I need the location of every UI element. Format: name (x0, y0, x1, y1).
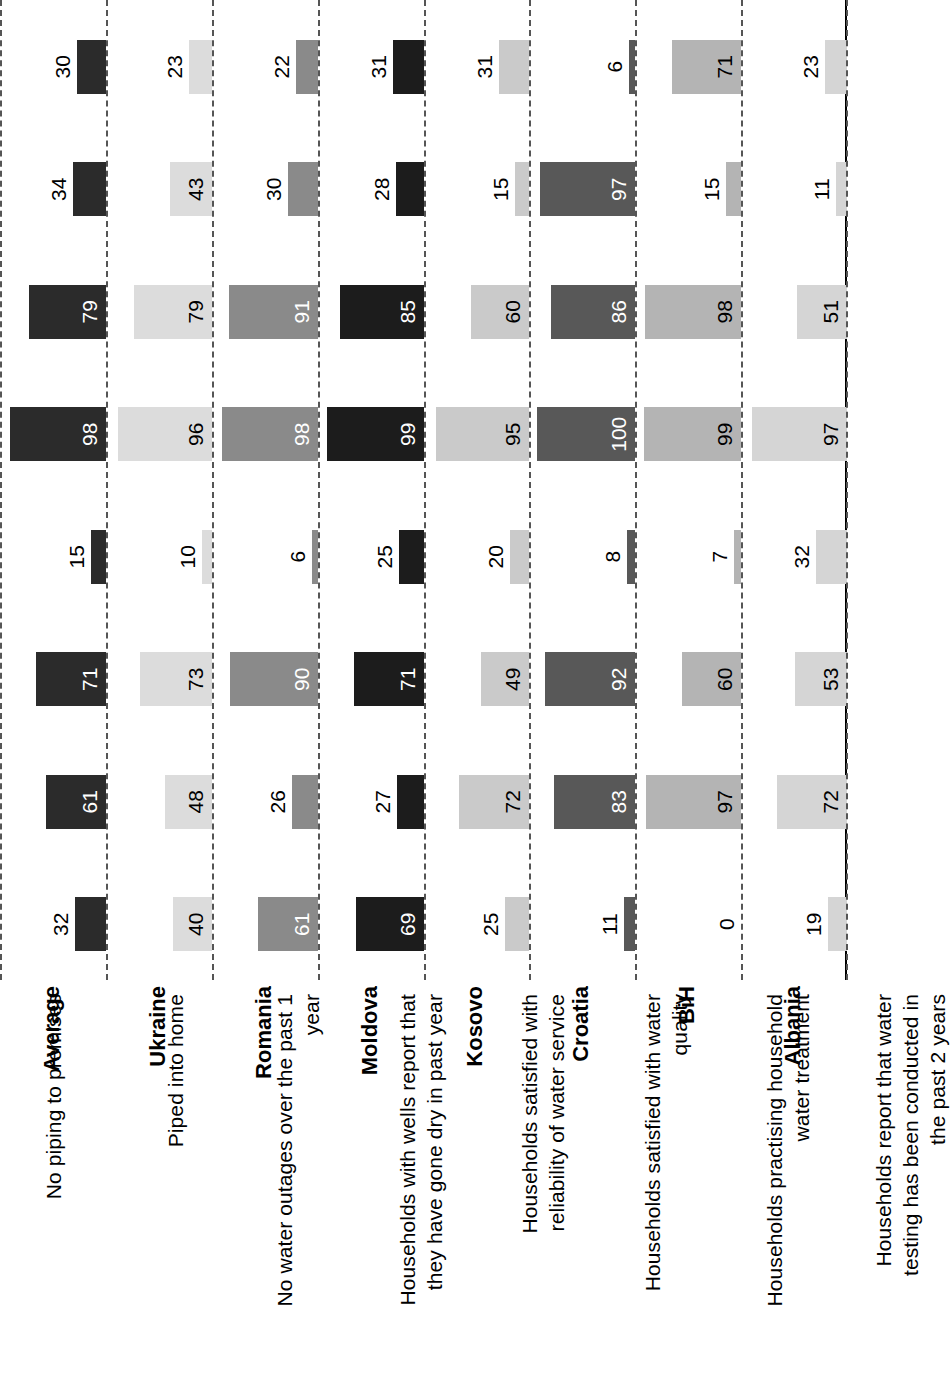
bar (510, 530, 530, 584)
bar (499, 40, 529, 94)
bar (77, 40, 106, 94)
bar-value-label: 15 (489, 162, 513, 216)
bar-value-label: 48 (184, 775, 208, 829)
bar-slot: 31 (424, 40, 530, 94)
band-separator (424, 0, 426, 980)
bar-value-label: 71 (78, 652, 102, 706)
bar-slot: 15 (635, 162, 741, 216)
bar-slot: 43 (106, 162, 212, 216)
bar-slot: 79 (106, 285, 212, 339)
band-separator (529, 0, 531, 980)
indicator-label-7: Households report that watertesting has … (870, 994, 951, 1366)
bar-slot: 27 (318, 775, 424, 829)
bar-slot: 90 (212, 652, 318, 706)
country-band-moldova: Moldova6927712599852831 (318, 0, 424, 980)
bar-slot: 95 (424, 407, 530, 461)
bar (399, 530, 423, 584)
bar-slot: 61 (212, 897, 318, 951)
bar-value-label: 49 (501, 652, 525, 706)
bar (296, 40, 318, 94)
bar (73, 162, 106, 216)
band-separator (0, 0, 2, 980)
country-label-average: Average (39, 986, 65, 1072)
bar-value-label: 97 (713, 775, 737, 829)
bar-slot: 99 (635, 407, 741, 461)
bar-value-label: 32 (790, 530, 814, 584)
bar-value-label: 15 (700, 162, 724, 216)
bar-value-label: 26 (266, 775, 290, 829)
bar-value-label: 60 (713, 652, 737, 706)
bar-value-label: 11 (810, 162, 834, 216)
bar (292, 775, 317, 829)
bar-slot: 19 (741, 897, 847, 951)
bar (397, 775, 423, 829)
bar-value-label: 95 (501, 407, 525, 461)
bar (816, 530, 847, 584)
bar-value-label: 28 (370, 162, 394, 216)
bar-value-label: 79 (184, 285, 208, 339)
bar-value-label: 73 (184, 652, 208, 706)
country-label-romania: Romania (251, 986, 277, 1079)
bar-slot: 15 (0, 530, 106, 584)
bar-slot: 53 (741, 652, 847, 706)
country-band-bih: BiH09760799981571 (635, 0, 741, 980)
bar-value-label: 53 (819, 652, 843, 706)
bar-slot: 6 (212, 530, 318, 584)
bar-slot: 83 (529, 775, 635, 829)
bar-value-label: 31 (473, 40, 497, 94)
bar-value-label: 25 (479, 897, 503, 951)
bar-value-label: 23 (163, 40, 187, 94)
country-label-bih: BiH (674, 986, 700, 1024)
bar-value-label: 91 (290, 285, 314, 339)
bar (189, 40, 212, 94)
bar-value-label: 23 (799, 40, 823, 94)
country-label-albania: Albania (780, 986, 806, 1065)
bar-value-label: 40 (184, 897, 208, 951)
bar-value-label: 72 (501, 775, 525, 829)
bar-slot: 49 (424, 652, 530, 706)
bar-value-label: 60 (501, 285, 525, 339)
bar-slot: 25 (424, 897, 530, 951)
bar-value-label: 22 (270, 40, 294, 94)
bar (515, 162, 530, 216)
band-separator (635, 0, 637, 980)
bar (825, 40, 848, 94)
bar-slot: 79 (0, 285, 106, 339)
bar (624, 897, 635, 951)
bar-value-label: 15 (65, 530, 89, 584)
bar-slot: 98 (212, 407, 318, 461)
bar-value-label: 99 (713, 407, 737, 461)
bar-slot: 34 (0, 162, 106, 216)
bar-value-label: 61 (78, 775, 102, 829)
country-label-croatia: Croatia (568, 986, 594, 1062)
bar-value-label: 32 (49, 897, 73, 951)
indicator-label-3: Households with wells report thatthey ha… (394, 994, 448, 1366)
bar-slot: 61 (0, 775, 106, 829)
bar-slot: 98 (635, 285, 741, 339)
bar (91, 530, 106, 584)
bar-slot: 23 (106, 40, 212, 94)
bar-value-label: 97 (819, 407, 843, 461)
bar-value-label: 43 (184, 162, 208, 216)
bar-value-label: 30 (51, 40, 75, 94)
bar-slot: 91 (212, 285, 318, 339)
bar-slot: 72 (424, 775, 530, 829)
bar-value-label: 98 (78, 407, 102, 461)
bar-slot: 60 (635, 652, 741, 706)
bar (396, 162, 423, 216)
bar-slot: 30 (0, 40, 106, 94)
bar-slot: 25 (318, 530, 424, 584)
bar-slot: 100 (529, 407, 635, 461)
bar-value-label: 6 (286, 530, 310, 584)
bar (202, 530, 212, 584)
band-separator (212, 0, 214, 980)
band-separator (846, 0, 848, 980)
bar-slot: 60 (424, 285, 530, 339)
bar-value-label: 30 (262, 162, 286, 216)
bar-slot: 92 (529, 652, 635, 706)
bar (734, 530, 741, 584)
bar-value-label: 72 (819, 775, 843, 829)
bar-slot: 32 (0, 897, 106, 951)
bar-slot: 71 (635, 40, 741, 94)
